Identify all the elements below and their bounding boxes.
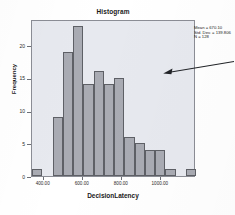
histogram-bar [186, 169, 196, 176]
y-axis-tick-label: 15 [7, 76, 25, 81]
histogram-figure: Histogram Frequency 05101520 400.00600.0… [0, 0, 235, 215]
y-axis-tick [27, 46, 31, 47]
histogram-bar [145, 150, 155, 176]
histogram-bar [73, 26, 83, 176]
y-axis-tick [27, 144, 31, 145]
histogram-bar [83, 84, 93, 176]
bars-container [32, 21, 194, 176]
histogram-bar [155, 150, 165, 176]
histogram-bar [114, 78, 124, 176]
y-axis-tick-label: 20 [7, 44, 25, 49]
histogram-bar [135, 143, 145, 176]
x-axis-tick [121, 177, 122, 180]
histogram-bar [94, 71, 104, 176]
y-axis-tick [27, 177, 31, 178]
x-axis-tick-label: 600.00 [65, 181, 99, 187]
histogram-bar [124, 137, 134, 176]
histogram-bar [53, 117, 63, 176]
y-axis-tick-label: 5 [7, 142, 25, 147]
x-axis-tick [82, 177, 83, 180]
x-axis-tick [43, 177, 44, 180]
x-axis-tick-label: 400.00 [26, 181, 60, 187]
histogram-bar [104, 84, 114, 176]
x-axis-tick-label: 800.00 [104, 181, 138, 187]
y-axis-tick-label: 10 [7, 109, 25, 114]
histogram-bar [165, 169, 175, 176]
stat-n: N = 128 [194, 35, 234, 40]
histogram-bar [32, 169, 42, 176]
x-axis-label: DecisionLatency [31, 192, 195, 199]
x-axis-tick-label: 1000.00 [143, 181, 177, 187]
page-title: Histogram [31, 8, 195, 15]
statistics-annotation: Mean = 670.10 Std. Dev. = 139.806 N = 12… [194, 26, 234, 40]
y-axis-tick [27, 79, 31, 80]
y-axis-tick-label: 0 [7, 175, 25, 180]
x-axis-tick [160, 177, 161, 180]
y-axis-tick [27, 112, 31, 113]
histogram-bar [63, 52, 73, 176]
plot-area [31, 20, 195, 177]
